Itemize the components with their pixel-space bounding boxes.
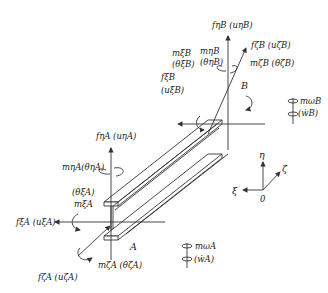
- label-f-zeta-a: fζA (uζA): [37, 272, 77, 282]
- label-m-eta-b: mηB: [200, 46, 219, 56]
- axis-zeta-label: ζ: [282, 163, 288, 174]
- label-m-omega-b: mωB: [300, 96, 321, 106]
- label-f-xi-a: fξA (uξA): [15, 217, 56, 227]
- label-w-dot-a: (ẇA): [194, 254, 214, 264]
- label-u-xi-b: (uξB): [161, 85, 184, 95]
- label-m-omega-a: mωA: [195, 241, 216, 251]
- label-m-xi-b: mξB: [172, 48, 191, 58]
- m-zeta-b-rotation-icon: [246, 96, 252, 110]
- node-a-label: A: [129, 241, 137, 252]
- label-f-zeta-b: fζB (uζB): [250, 40, 291, 50]
- node-b-label: B: [240, 80, 248, 91]
- beam-element-diagram: fηB (uηB) mηB (θηB) fζB (uζB) mζB (θζB) …: [0, 0, 328, 293]
- bimoment-b-icon: [288, 98, 298, 124]
- zeta-axis-arrow: [263, 172, 280, 190]
- label-theta-xi-a: (θξA): [72, 187, 95, 197]
- label-m-zeta-a: mζA (θζA): [98, 260, 142, 270]
- label-m-xi-a: mξA: [74, 199, 93, 209]
- axis-eta-label: η: [259, 149, 265, 160]
- diagram-svg: fηB (uηB) mηB (θηB) fζB (uζB) mζB (θζB) …: [0, 0, 328, 293]
- label-m-eta-a: mηA(θηA): [62, 162, 104, 172]
- axis-origin-label: 0: [260, 194, 266, 204]
- label-f-xi-b: fξB: [160, 72, 175, 82]
- label-theta-eta-b: (θηB): [200, 57, 223, 67]
- label-m-zeta-b: mζB (θζB): [250, 58, 294, 68]
- f-zeta-a-arrow: [78, 226, 110, 256]
- label-f-eta-b: fηB (uηB): [211, 20, 253, 30]
- axis-xi-label: ξ: [232, 185, 238, 196]
- label-f-eta-a: fηA (uηA): [95, 131, 136, 141]
- coordinate-axes: [243, 162, 280, 190]
- label-theta-xi-b: (θξB): [172, 59, 195, 69]
- label-w-dot-b: (ẇB): [298, 108, 318, 118]
- bimoment-a-icon: [182, 243, 192, 268]
